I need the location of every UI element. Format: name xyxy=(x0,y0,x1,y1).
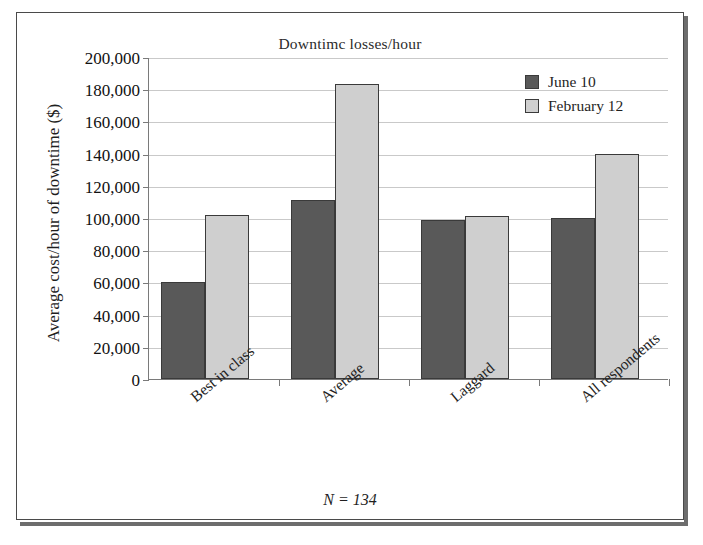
chart-footnote: N = 134 xyxy=(17,491,683,509)
y-axis-label: 180,000 xyxy=(30,82,140,99)
bar[interactable] xyxy=(551,218,595,379)
y-axis-label: 20,000 xyxy=(30,339,140,356)
y-axis-label: 100,000 xyxy=(30,211,140,228)
y-axis-label: 120,000 xyxy=(30,178,140,195)
bar[interactable] xyxy=(335,84,379,379)
frame-shadow xyxy=(20,522,688,526)
y-axis-label: 160,000 xyxy=(30,114,140,131)
y-axis-label: 40,000 xyxy=(30,307,140,324)
bar-group xyxy=(149,58,279,379)
x-axis-tick xyxy=(669,379,670,386)
bar-group xyxy=(409,58,539,379)
x-axis-tick xyxy=(279,379,280,386)
plot-area xyxy=(148,58,668,380)
y-axis-label: 200,000 xyxy=(30,50,140,67)
y-axis-label: 60,000 xyxy=(30,275,140,292)
chart-frame: Downtimc losses/hour Average cost/hour o… xyxy=(16,12,684,520)
bar[interactable] xyxy=(465,216,509,379)
bar-group xyxy=(279,58,409,379)
bar[interactable] xyxy=(161,282,205,379)
y-axis-label: 0 xyxy=(30,372,140,389)
y-axis-tick xyxy=(143,380,149,381)
x-axis-tick xyxy=(409,379,410,386)
bar[interactable] xyxy=(421,220,465,379)
bars-layer xyxy=(149,58,668,379)
x-axis-tick xyxy=(539,379,540,386)
chart-page: Downtimc losses/hour Average cost/hour o… xyxy=(0,0,703,545)
bar[interactable] xyxy=(291,200,335,379)
y-axis-label: 80,000 xyxy=(30,243,140,260)
y-axis-label: 140,000 xyxy=(30,146,140,163)
